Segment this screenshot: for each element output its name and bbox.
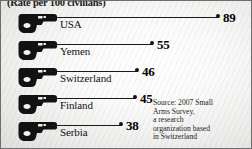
value-label: 46 [142,64,154,80]
source-note: Source: 2007 Small Arms Survey, a resear… [153,99,245,142]
value-label: 55 [157,37,169,53]
country-label: Finland [60,99,93,111]
leader-line [49,125,122,126]
value-label: 45 [140,91,152,107]
country-label: Yemen [60,45,90,57]
value-label: 38 [126,118,138,134]
handgun-icon [12,119,58,141]
chart-row: Switzerland 46 [1,63,252,89]
leader-endpoint [133,95,137,99]
leader-line [49,44,153,45]
handgun-icon [12,11,58,33]
chart-row: USA 89 [1,9,252,35]
leader-line [49,98,136,99]
handgun-icon [12,92,58,114]
leader-line [49,17,219,18]
chart-row: Yemen 55 [1,36,252,62]
source-line-5: in Switzerland [153,133,245,142]
value-label: 89 [223,10,235,26]
leader-endpoint [216,14,220,18]
leader-endpoint [150,41,154,45]
country-label: USA [60,18,82,30]
country-label: Serbia [60,126,88,138]
handgun-icon [12,38,58,60]
gun-ownership-infographic: (Rate per 100 civilians) USA 89 Yemen [0,0,252,149]
leader-endpoint [135,68,139,72]
chart-subtitle: (Rate per 100 civilians) [7,0,106,8]
country-label: Switzerland [60,72,111,84]
leader-endpoint [119,122,123,126]
leader-line [49,71,138,72]
handgun-icon [12,65,58,87]
